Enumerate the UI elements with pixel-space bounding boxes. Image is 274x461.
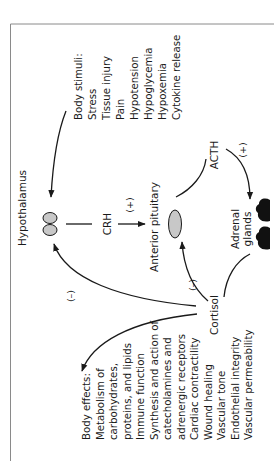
arc-pituitary-to-acth [176, 159, 206, 197]
diagram-rotated-container: Hypothalamus CRH (+) Anterior pituitary … [0, 0, 274, 461]
anterior-pituitary-label: Anterior pituitary [148, 182, 160, 272]
effect-item: catecholamines and [162, 337, 173, 440]
effect-item: Wound healing [203, 364, 214, 440]
anterior-pituitary-icon [169, 210, 182, 238]
effect-item: adrenergic receptors [176, 334, 187, 440]
adrenal-label-line2: glands [241, 212, 253, 247]
stimulus-item: Tissue injury [101, 56, 112, 121]
effect-item: Cardiac contractility [189, 337, 200, 440]
crh-label: CRH [101, 213, 113, 236]
hypothalamus-icon [43, 213, 57, 236]
stimulus-item: Hypoxemia [157, 63, 168, 120]
cortisol-label: Cortisol [208, 295, 220, 335]
cortisol-hypothalamus-minus-sign: (–) [65, 290, 76, 302]
body-stimuli-list: Body stimuli: Stress Tissue injury Pain … [73, 35, 182, 121]
effect-item: Endothelial integrity [230, 337, 241, 440]
stimulus-item: Cytokine release [171, 35, 182, 120]
hypothalamus-label: Hypothalamus [16, 170, 28, 246]
body-stimuli-heading: Body stimuli: [73, 53, 84, 120]
arrow-stimuli-to-hypothalamus [51, 111, 66, 197]
hpa-axis-diagram: Hypothalamus CRH (+) Anterior pituitary … [0, 0, 274, 461]
body-effects-list: Body effects: Metabolism of carbohydrate… [81, 320, 254, 440]
stimulus-item: Hypotension [129, 56, 140, 120]
effect-item: proteins, and lipids [122, 343, 133, 440]
effect-item: carbohydrates, [108, 363, 119, 440]
crh-plus-sign: (+) [124, 197, 135, 212]
stimulus-item: Stress [87, 89, 98, 120]
arc-adrenal-to-cortisol [224, 254, 250, 297]
cortisol-pituitary-minus-sign: (–) [187, 279, 198, 291]
effect-item: Metabolism of [95, 368, 106, 440]
adrenal-glands-icon [256, 199, 270, 250]
stimulus-item: Hypoglycemia [143, 47, 154, 120]
acth-label: ACTH [208, 141, 220, 170]
effect-item: Vascular permeability [243, 330, 254, 440]
body-effects-heading: Body effects: [81, 373, 92, 440]
adrenal-label-line1: Adrenal [229, 209, 241, 249]
stimulus-item: Pain [115, 99, 126, 120]
arrow-cortisol-to-pituitary [182, 242, 208, 301]
acth-plus-sign: (+) [237, 142, 248, 157]
effect-item: Immune function [135, 353, 146, 440]
effect-item: Vascular tone [216, 371, 227, 440]
effect-item: Synthesis and action of [149, 320, 160, 440]
